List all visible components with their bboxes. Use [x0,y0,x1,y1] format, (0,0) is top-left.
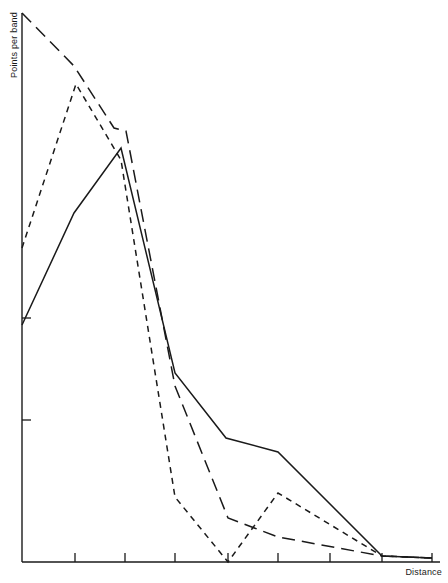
x-axis-label: Distance [405,567,442,577]
y-axis-ticks [22,318,31,420]
series-line-solid [22,148,432,558]
chart-plot-area [0,0,448,583]
y-axis-label: Points per band [9,5,19,85]
series-line-short-dash [22,84,432,562]
series-line-long-dash [22,13,432,558]
data-series-group [22,13,432,562]
axis-spines [22,13,440,562]
chart-figure: Points per band Distance [0,0,448,583]
x-axis-ticks [75,553,432,562]
